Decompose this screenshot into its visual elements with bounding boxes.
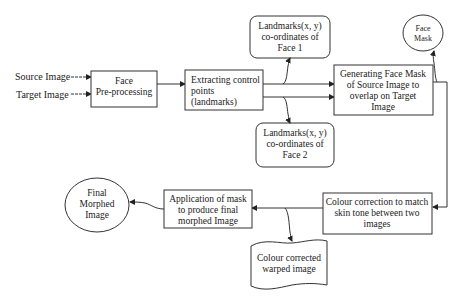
svg-text:Face: Face — [415, 24, 431, 33]
input-source-image: Source Image — [15, 71, 71, 82]
svg-text:Face: Face — [115, 76, 133, 86]
svg-text:co-ordinates of: co-ordinates of — [266, 139, 324, 149]
svg-text:Landmarks(x, y): Landmarks(x, y) — [263, 128, 326, 139]
arrow-extract-to-landmarks-1 — [283, 58, 290, 84]
arrow-colour-correction-to-warped — [285, 208, 292, 241]
svg-text:Morphed: Morphed — [80, 199, 115, 209]
svg-text:(landmarks): (landmarks) — [191, 97, 237, 108]
arrow-apply-mask-to-final — [130, 202, 164, 209]
svg-text:Colour corrected: Colour corrected — [257, 253, 321, 263]
svg-text:Extracting control: Extracting control — [191, 75, 260, 85]
arrow-facemask-gen-to-face-mask — [433, 51, 437, 82]
node-extracting-control-points: Extracting control points (landmarks) — [185, 70, 263, 110]
svg-text:overlap on Target: overlap on Target — [350, 91, 417, 101]
svg-text:images: images — [364, 219, 391, 229]
svg-text:Face 2: Face 2 — [282, 150, 307, 160]
arrow-facemask-gen-to-colour-correction — [433, 82, 447, 207]
node-generating-face-mask: Generating Face Mask of Source Image to … — [334, 65, 433, 115]
svg-text:Target Image: Target Image — [16, 89, 69, 100]
node-colour-corrected-warped-image: Colour corrected warped image — [251, 240, 327, 289]
flow-diagram: Source Image Target Image Face Pre-proce… — [0, 0, 465, 306]
svg-text:Source Image: Source Image — [15, 71, 71, 82]
svg-text:Landmarks(x, y): Landmarks(x, y) — [258, 21, 321, 32]
node-landmarks-face-2: Landmarks(x, y) co-ordinates of Face 2 — [256, 123, 334, 167]
svg-text:Final: Final — [87, 188, 107, 198]
svg-text:points: points — [191, 86, 215, 96]
svg-text:Pre-processing: Pre-processing — [96, 87, 153, 97]
svg-text:Colour correction to match: Colour correction to match — [326, 197, 429, 207]
svg-text:skin tone between two: skin tone between two — [334, 208, 419, 218]
svg-text:of Source Image to: of Source Image to — [347, 80, 420, 90]
svg-text:Application of mask: Application of mask — [169, 194, 247, 204]
svg-text:warped image: warped image — [262, 264, 316, 274]
node-landmarks-face-1: Landmarks(x, y) co-ordinates of Face 1 — [250, 16, 330, 58]
svg-text:co-ordinates of: co-ordinates of — [261, 32, 319, 42]
node-colour-correction: Colour correction to match skin tone bet… — [323, 193, 432, 234]
node-face-preprocessing: Face Pre-processing — [91, 71, 157, 107]
svg-text:Generating Face Mask: Generating Face Mask — [340, 69, 426, 79]
svg-text:morphed Image: morphed Image — [178, 216, 238, 226]
svg-text:Image: Image — [371, 102, 395, 112]
input-target-image: Target Image — [16, 89, 69, 100]
svg-text:to produce final: to produce final — [178, 205, 239, 215]
arrow-extract-to-landmarks-2 — [283, 97, 290, 123]
node-face-mask: Face Mask — [403, 15, 443, 51]
svg-text:Mask: Mask — [414, 34, 432, 43]
svg-text:Face 1: Face 1 — [277, 43, 302, 53]
svg-text:Image: Image — [85, 210, 109, 220]
node-application-of-mask: Application of mask to produce final mor… — [164, 190, 252, 228]
node-final-morphed-image: Final Morphed Image — [65, 178, 129, 232]
